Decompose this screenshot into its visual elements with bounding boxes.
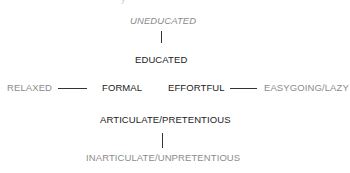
connector-effortful-easygoing — [230, 88, 257, 89]
label-formal: FORMAL — [102, 83, 142, 93]
connector-relaxed-formal — [58, 88, 87, 89]
label-inarticulate-unpretentious: INARTICULATE/UNPRETENTIOUS — [86, 153, 240, 163]
cropped-text-remnant: y — [121, 0, 126, 4]
label-effortful: EFFORTFUL — [168, 83, 225, 93]
label-educated: EDUCATED — [135, 55, 187, 65]
connector-articulate-inarticulate — [162, 133, 163, 148]
connector-uneducated-educated — [161, 31, 162, 43]
label-uneducated: UNEDUCATED — [130, 16, 196, 26]
label-easygoing-lazy: EASYGOING/LAZY — [264, 83, 349, 93]
label-relaxed: RELAXED — [7, 83, 52, 93]
label-articulate-pretentious: ARTICULATE/PRETENTIOUS — [100, 115, 231, 125]
